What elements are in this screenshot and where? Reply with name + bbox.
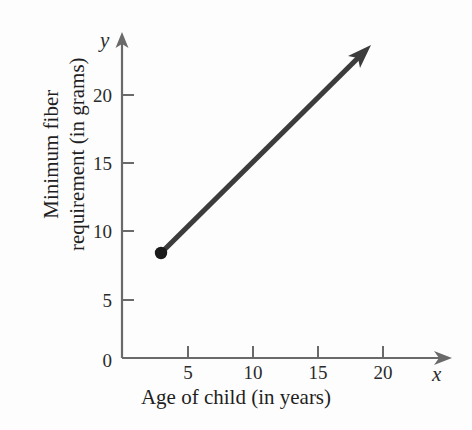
y-axis-title-line-1: Minimum fiber xyxy=(38,4,64,304)
data-point-marker xyxy=(155,247,167,259)
y-tick-label-10: 10 xyxy=(93,222,112,241)
y-axis-ticks xyxy=(122,95,134,300)
x-axis-variable-label: x xyxy=(432,364,441,385)
x-axis xyxy=(122,351,452,365)
x-tick-label-10: 10 xyxy=(244,363,263,382)
x-axis-title: Age of child (in years) xyxy=(0,385,472,409)
origin-tick-label: 0 xyxy=(103,351,113,370)
x-axis-ticks xyxy=(188,346,383,358)
fiber-requirement-chart: 0 5 10 15 20 5 10 15 20 y x Age of child… xyxy=(0,0,472,430)
y-axis-variable-label: y xyxy=(100,30,109,51)
y-axis-title: Minimum fiber requirement (in grams) xyxy=(38,4,91,304)
x-tick-label-20: 20 xyxy=(374,363,393,382)
y-tick-label-5: 5 xyxy=(103,291,113,310)
x-tick-label-15: 15 xyxy=(309,363,328,382)
y-tick-label-15: 15 xyxy=(93,154,112,173)
y-axis-title-line-2: requirement (in grams) xyxy=(64,4,90,304)
x-tick-label-5: 5 xyxy=(183,363,193,382)
y-axis xyxy=(116,32,129,358)
data-series-ray xyxy=(155,45,371,259)
y-tick-label-20: 20 xyxy=(93,86,112,105)
